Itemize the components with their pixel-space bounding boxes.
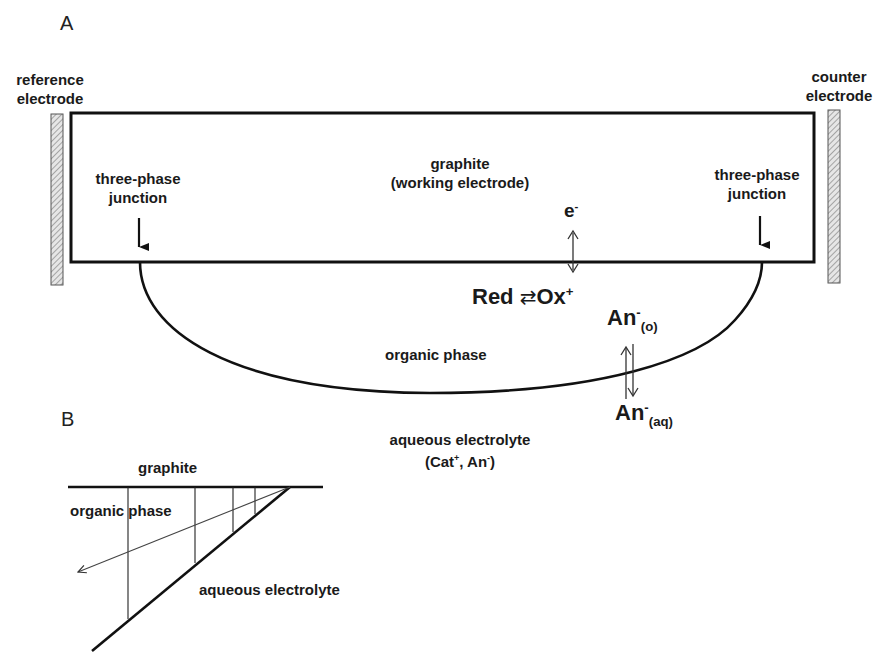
three-phase-junction-left-label: three-phase junction (82, 169, 194, 207)
propagation-arrow (78, 487, 290, 572)
anion-organic-label: An-(o) (607, 305, 658, 334)
counter-electrode-bar (828, 110, 840, 283)
reference-electrode-label: reference electrode (2, 70, 98, 108)
counter-electrode-label: counter electrode (791, 67, 887, 105)
panel-label-a: A (60, 14, 73, 33)
electron-label: e- (564, 200, 578, 222)
redox-equation: Red ⇄Ox+ (472, 284, 574, 310)
equilibrium-arrow-icon: ⇄ (520, 286, 537, 308)
organic-droplet-arc (140, 262, 762, 393)
anion-aqueous-label: An-(aq) (615, 400, 673, 429)
reference-electrode-bar (51, 114, 63, 285)
graphite-label-b: graphite (138, 458, 197, 477)
diagram-canvas (0, 0, 887, 668)
organic-phase-label-b: organic phase (70, 501, 172, 520)
panel-label-b: B (61, 410, 74, 429)
electrolyte-ions-label: (Cat+, An-) (360, 449, 560, 471)
aqueous-electrolyte-label: aqueous electrolyte (Cat+, An-) (360, 430, 560, 471)
three-phase-junction-right-label: three-phase junction (701, 165, 813, 203)
working-electrode-label: graphite (working electrode) (370, 154, 550, 192)
organic-phase-label: organic phase (385, 345, 487, 364)
aqueous-electrolyte-label-b: aqueous electrolyte (199, 580, 340, 599)
electron-transfer-double-arrow-icon (568, 231, 578, 272)
